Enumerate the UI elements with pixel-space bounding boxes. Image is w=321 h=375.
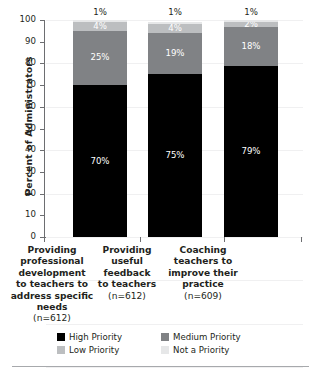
y-axis-tick-mark (40, 107, 45, 108)
category-line: needs (4, 302, 100, 313)
bar-segment-value: 4% (168, 24, 182, 33)
plot-area: 1009080706050403020100 4%25%70%1%4%19%75… (44, 20, 302, 238)
legend-item[interactable]: Low Priority (57, 345, 161, 355)
sample-size: (n=612) (4, 313, 100, 324)
legend-swatch-icon (57, 333, 65, 341)
y-axis-tick-label: 0 (2, 231, 36, 242)
y-axis-tick-label: 60 (2, 101, 36, 112)
y-axis-tick-mark (40, 194, 45, 195)
legend-label: High Priority (69, 332, 122, 342)
x-axis-separator (140, 237, 141, 242)
bar-segment[interactable]: 4% (148, 24, 202, 33)
y-axis-tick: 0 (2, 237, 302, 238)
y-axis-tick-mark (40, 129, 45, 130)
y-axis-tick-label: 90 (2, 36, 36, 47)
legend-swatch-icon (57, 346, 65, 354)
legend-label: Medium Priority (173, 332, 241, 342)
bar-segment[interactable]: 19% (148, 33, 202, 74)
bar-segment-value: 4% (93, 22, 107, 31)
bar-segment-value: 18% (241, 42, 260, 51)
y-axis-tick-mark (40, 150, 45, 151)
category-line: Coaching (155, 245, 251, 256)
bar-segment-value: 70% (90, 157, 109, 166)
bar-segment[interactable]: 4% (73, 22, 127, 31)
legend-swatch-icon (161, 333, 169, 341)
bar-stack[interactable]: 4%25%70%1% (73, 20, 127, 237)
bar-segment[interactable]: 75% (148, 74, 202, 237)
bar-segment[interactable]: 18% (224, 27, 278, 66)
category-line: teachers to (155, 256, 251, 267)
y-axis-tick-mark (40, 172, 45, 173)
legend-item[interactable]: Not a Priority (161, 345, 272, 355)
bar-segment-value: 75% (165, 151, 184, 160)
bar-segment-value: 79% (241, 147, 260, 156)
bottom-divider (12, 366, 309, 367)
y-axis-tick-mark (40, 20, 45, 21)
y-axis-tick-label: 40 (2, 144, 36, 155)
bar-segment-value: 25% (90, 53, 109, 62)
category-line: improve their (155, 268, 251, 279)
category-line: practice (155, 279, 251, 290)
gridline (46, 367, 303, 368)
y-axis-tick-mark (40, 215, 45, 216)
y-axis-tick-label: 10 (2, 209, 36, 220)
chart-legend: High PriorityMedium PriorityLow Priority… (57, 332, 272, 355)
x-axis-separator (301, 237, 302, 242)
y-axis-tick-mark (40, 42, 45, 43)
legend-label: Not a Priority (173, 345, 229, 355)
legend-item[interactable]: High Priority (57, 332, 161, 342)
legend-swatch-icon (161, 346, 169, 354)
y-axis-tick-label: 20 (2, 188, 36, 199)
y-axis-tick-mark (40, 85, 45, 86)
y-axis-tick-mark (40, 63, 45, 64)
legend-label: Low Priority (69, 345, 119, 355)
y-axis-tick-label: 50 (2, 123, 36, 134)
bar-segment[interactable]: 25% (73, 31, 127, 85)
sample-size: (n=609) (155, 291, 251, 302)
x-axis-separator (224, 237, 225, 242)
bar-top-value: 1% (224, 7, 278, 17)
y-axis-tick-label: 30 (2, 166, 36, 177)
y-axis-tick-label: 100 (2, 14, 36, 25)
bar-stack[interactable]: 2%18%79%1% (224, 20, 278, 237)
bar-top-value: 1% (148, 7, 202, 17)
x-axis-separator (44, 237, 45, 242)
bar-segment[interactable]: 70% (73, 85, 127, 237)
legend-item[interactable]: Medium Priority (161, 332, 272, 342)
y-axis-tick-label: 70 (2, 79, 36, 90)
chart-figure: Percent of Administrators 10090807060504… (0, 0, 321, 375)
bar-segment[interactable]: 79% (224, 66, 278, 237)
x-axis-category-label: Coachingteachers toimprove theirpractice… (155, 245, 251, 302)
bar-stack[interactable]: 4%19%75%1% (148, 22, 202, 237)
bar-segment-value: 19% (165, 49, 184, 58)
bar-top-value: 1% (73, 7, 127, 17)
y-axis-tick-label: 80 (2, 57, 36, 68)
